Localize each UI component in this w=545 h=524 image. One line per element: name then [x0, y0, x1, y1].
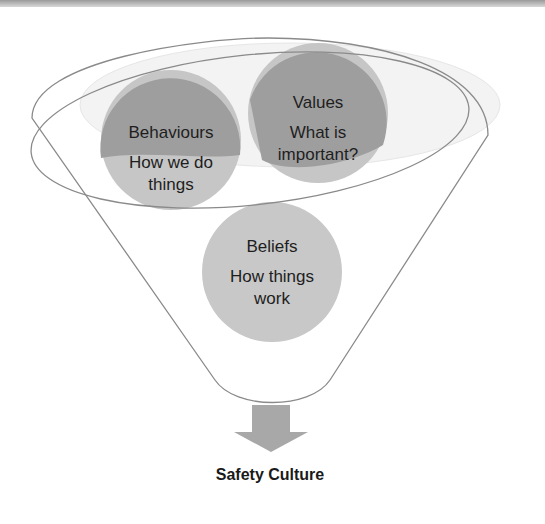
behaviours-subtitle-line2: things: [106, 174, 236, 196]
behaviours-label: Behaviours How we do things: [106, 122, 236, 196]
values-label: Values What is important?: [253, 92, 383, 166]
beliefs-subtitle-line1: How things: [207, 266, 337, 288]
behaviours-title: Behaviours: [106, 122, 236, 144]
values-subtitle-line2: important?: [253, 144, 383, 166]
behaviours-subtitle-line1: How we do: [106, 152, 236, 174]
beliefs-subtitle-line2: work: [207, 288, 337, 310]
beliefs-label: Beliefs How things work: [207, 236, 337, 310]
values-title: Values: [253, 92, 383, 114]
safety-culture-label: Safety Culture: [170, 466, 370, 484]
beliefs-title: Beliefs: [207, 236, 337, 258]
values-subtitle-line1: What is: [253, 122, 383, 144]
down-arrow-icon: [234, 405, 308, 452]
